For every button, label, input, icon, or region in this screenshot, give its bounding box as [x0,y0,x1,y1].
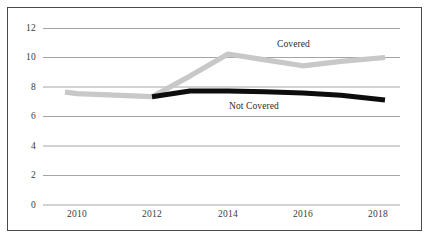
y-axis-tick-0: 0 [12,200,36,210]
x-axis-tick-2018: 2018 [358,209,398,219]
x-axis-tick-2016: 2016 [283,209,323,219]
series-annotation-not-covered: Not Covered [229,101,279,111]
y-axis-tick-8: 8 [12,82,36,92]
x-axis-tick-2014: 2014 [208,209,248,219]
x-axis-tick-2010: 2010 [57,209,97,219]
y-axis-tick-10: 10 [12,52,36,62]
chart-figure: 12 10 8 6 4 2 0 2010 2012 2014 2016 2018… [0,0,432,245]
x-axis-tick-2012: 2012 [132,209,172,219]
series-annotation-covered: Covered [277,39,310,49]
y-axis-tick-4: 4 [12,141,36,151]
y-axis-tick-12: 12 [12,23,36,33]
series-line-not-covered [152,91,385,100]
y-axis-tick-2: 2 [12,170,36,180]
y-axis-tick-6: 6 [12,111,36,121]
